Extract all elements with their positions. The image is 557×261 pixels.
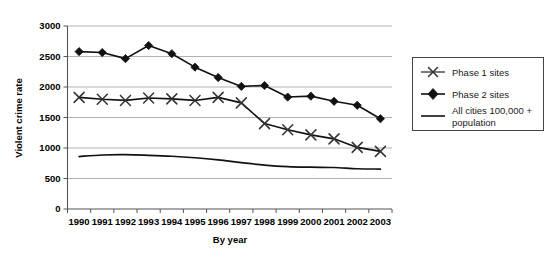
legend: Phase 1 sites Phase 2 sites All cities 1…	[413, 58, 544, 131]
y-tick-label-1000: 1000	[39, 142, 60, 153]
x-tick-label-1995: 1995	[184, 216, 206, 227]
x-axis-title: By year	[213, 234, 248, 245]
y-axis-title: Violent crime rate	[13, 78, 24, 158]
x-tick-label-1992: 1992	[115, 216, 136, 227]
x-tick-label-1997: 1997	[231, 216, 252, 227]
x-tick-label-1991: 1991	[92, 216, 114, 227]
legend-entry-phase-2[interactable]: Phase 2 sites	[421, 89, 509, 100]
legend-label-all-cities-line2: population	[452, 117, 496, 128]
legend-label-all-cities-line1: All cities 100,000 +	[452, 105, 532, 116]
violent-crime-rate-chart: 050010001500200025003000 199019911992199…	[0, 0, 557, 261]
y-tick-label-1500: 1500	[39, 112, 60, 123]
y-tick-label-3000: 3000	[39, 20, 60, 31]
legend-label-phase-2: Phase 2 sites	[452, 89, 509, 100]
y-tick-label-2500: 2500	[39, 51, 60, 62]
x-tick-label-2001: 2001	[323, 216, 345, 227]
y-tick-label-2000: 2000	[39, 81, 60, 92]
x-tick-label-1999: 1999	[277, 216, 298, 227]
x-tick-label-1990: 1990	[69, 216, 90, 227]
x-tick-label-2000: 2000	[300, 216, 321, 227]
x-tick-label-1993: 1993	[138, 216, 159, 227]
x-tick-label-1998: 1998	[254, 216, 275, 227]
legend-label-phase-1: Phase 1 sites	[452, 67, 509, 78]
x-tick-label-2003: 2003	[370, 216, 391, 227]
x-tick-label-1994: 1994	[161, 216, 183, 227]
x-tick-label-1996: 1996	[208, 216, 229, 227]
x-tick-label-2002: 2002	[347, 216, 368, 227]
y-tick-label-500: 500	[45, 173, 61, 184]
y-tick-label-0: 0	[55, 203, 60, 214]
